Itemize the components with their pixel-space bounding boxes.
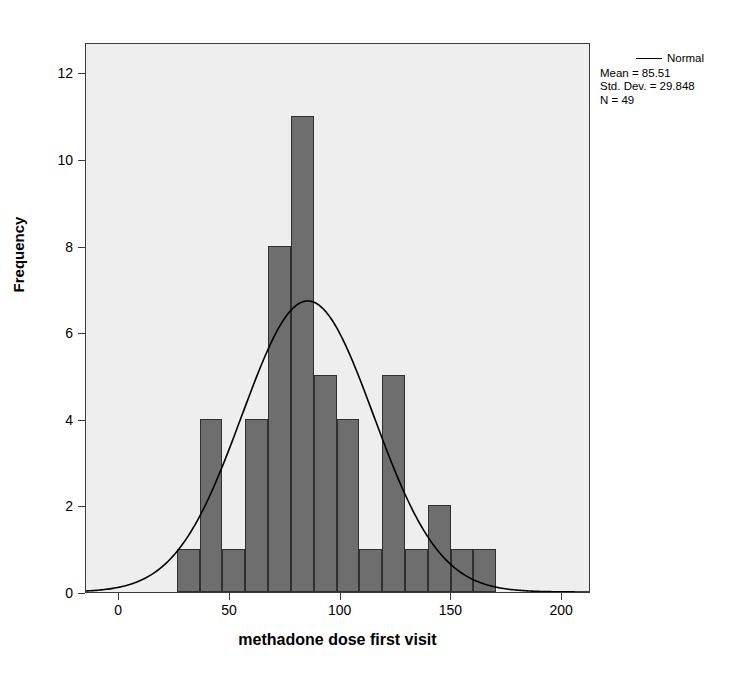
y-tick-label: 8 bbox=[65, 240, 73, 254]
x-tick-label: 50 bbox=[221, 603, 237, 617]
y-tick-mark bbox=[78, 506, 85, 507]
y-tick-label: 12 bbox=[57, 66, 73, 80]
histogram-bar bbox=[337, 419, 360, 592]
legend-stat-line: Std. Dev. = 29.848 bbox=[600, 80, 750, 94]
x-axis-title: methadone dose first visit bbox=[85, 631, 590, 649]
histogram-bar bbox=[291, 116, 314, 592]
x-tick-label: 150 bbox=[439, 603, 462, 617]
histogram-bar bbox=[359, 549, 382, 592]
x-axis: 050100150200 methadone dose first visit bbox=[0, 593, 754, 686]
y-tick-mark bbox=[78, 160, 85, 161]
y-axis: Frequency 024681012 bbox=[0, 0, 85, 686]
x-tick-mark bbox=[118, 593, 119, 600]
histogram-bar bbox=[200, 419, 223, 592]
histogram-bar bbox=[268, 246, 291, 592]
y-tick-label: 10 bbox=[57, 153, 73, 167]
y-tick-mark bbox=[78, 73, 85, 74]
legend: Normal Mean = 85.51Std. Dev. = 29.848N =… bbox=[600, 52, 750, 107]
x-tick-mark bbox=[450, 593, 451, 600]
legend-stat-line: N = 49 bbox=[600, 94, 750, 108]
histogram-bar bbox=[222, 549, 245, 592]
y-tick-label: 2 bbox=[65, 499, 73, 513]
histogram-bar bbox=[314, 375, 337, 592]
histogram-bar bbox=[405, 549, 428, 592]
plot-inner bbox=[86, 44, 589, 592]
x-tick-mark bbox=[561, 593, 562, 600]
y-tick-label: 4 bbox=[65, 413, 73, 427]
histogram-bar bbox=[245, 419, 268, 592]
plot-area bbox=[85, 43, 590, 593]
y-tick-label: 6 bbox=[65, 326, 73, 340]
histogram-bar bbox=[382, 375, 405, 592]
legend-stat-line: Mean = 85.51 bbox=[600, 67, 750, 81]
legend-item-normal: Normal bbox=[600, 52, 750, 66]
y-axis-title: Frequency bbox=[10, 175, 27, 335]
legend-normal-label: Normal bbox=[667, 52, 704, 66]
legend-stats: Mean = 85.51Std. Dev. = 29.848N = 49 bbox=[600, 67, 750, 108]
x-tick-mark bbox=[229, 593, 230, 600]
histogram-bar bbox=[473, 549, 496, 592]
histogram-figure: Frequency 024681012 050100150200 methado… bbox=[0, 0, 754, 686]
x-tick-label: 100 bbox=[328, 603, 351, 617]
histogram-bar bbox=[428, 505, 451, 592]
histogram-bar bbox=[451, 549, 474, 592]
histogram-bar bbox=[177, 549, 200, 592]
y-tick-mark bbox=[78, 333, 85, 334]
y-tick-mark bbox=[78, 247, 85, 248]
y-tick-mark bbox=[78, 420, 85, 421]
x-tick-label: 0 bbox=[114, 603, 122, 617]
x-tick-mark bbox=[340, 593, 341, 600]
x-tick-label: 200 bbox=[550, 603, 573, 617]
legend-line-swatch-icon bbox=[636, 58, 662, 59]
